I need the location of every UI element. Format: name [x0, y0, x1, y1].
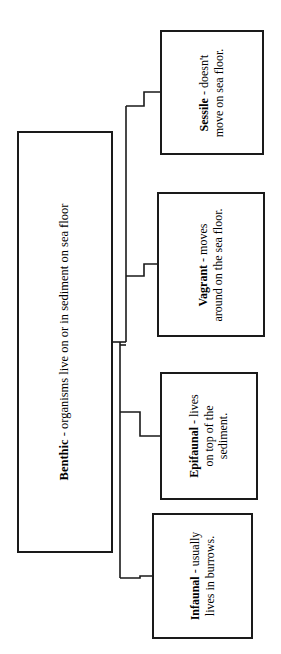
node-vagrant-text: Vagrant - moves around on the sea floor. — [196, 208, 225, 321]
node-epifaunal-term: Epifaunal — [187, 427, 201, 478]
node-epifaunal-text: Epifaunal - lives on top of the sediment… — [187, 394, 231, 477]
node-vagrant-line-2: around on the sea floor. — [211, 208, 226, 321]
connector-branch-epifaunal — [120, 412, 160, 436]
node-sessile-text: Sessile - doesn't move on sea floor. — [197, 48, 226, 137]
node-vagrant-separator: - — [196, 254, 210, 264]
node-benthic-definition: organisms live on or in sediment on sea … — [57, 204, 71, 429]
node-vagrant[interactable]: Vagrant - moves around on the sea floor. — [157, 192, 265, 337]
connector-branch-vagrant — [126, 264, 157, 276]
node-vagrant-definition-part-1: moves — [196, 223, 210, 254]
node-infaunal-definition-part-1: usually — [188, 532, 202, 567]
node-sessile-line-2: move on sea floor. — [212, 48, 227, 137]
node-sessile-line-1: Sessile - doesn't — [197, 48, 212, 137]
node-infaunal-line-1: Infaunal - usually — [188, 532, 203, 621]
node-infaunal-term: Infaunal — [188, 576, 202, 620]
node-benthic-separator: - — [57, 429, 71, 439]
node-infaunal-text: Infaunal - usually lives in burrows. — [188, 532, 217, 621]
node-benthic-term: Benthic — [57, 439, 71, 480]
node-sessile-term: Sessile — [197, 98, 211, 131]
node-epifaunal-line-3: sediment. — [216, 394, 231, 477]
node-benthic-text: Benthic - organisms live on or in sedime… — [57, 204, 72, 481]
node-infaunal-line-2: lives in burrows. — [203, 532, 218, 621]
node-infaunal-separator: - — [188, 566, 202, 576]
node-vagrant-line-1: Vagrant - moves — [196, 208, 211, 321]
connector-branch-sessile — [126, 92, 160, 106]
node-epifaunal-separator: - — [187, 417, 201, 427]
node-sessile[interactable]: Sessile - doesn't move on sea floor. — [160, 30, 264, 155]
node-epifaunal[interactable]: Epifaunal - lives on top of the sediment… — [160, 372, 258, 500]
connector-branch-infaunal — [120, 576, 152, 578]
node-epifaunal-definition-part-1: lives — [187, 394, 201, 417]
node-epifaunal-line-1: Epifaunal - lives — [187, 394, 202, 477]
node-sessile-definition-part-1: doesn't — [197, 54, 211, 88]
node-vagrant-term: Vagrant — [196, 264, 210, 306]
node-benthic[interactable]: Benthic - organisms live on or in sedime… — [17, 131, 113, 553]
node-benthic-line-1: Benthic - organisms live on or in sedime… — [57, 204, 72, 481]
node-infaunal[interactable]: Infaunal - usually lives in burrows. — [152, 513, 253, 639]
node-sessile-separator: - — [197, 88, 211, 98]
node-epifaunal-line-2: on top of the — [202, 394, 217, 477]
diagram-canvas: Benthic - organisms live on or in sedime… — [0, 0, 281, 654]
